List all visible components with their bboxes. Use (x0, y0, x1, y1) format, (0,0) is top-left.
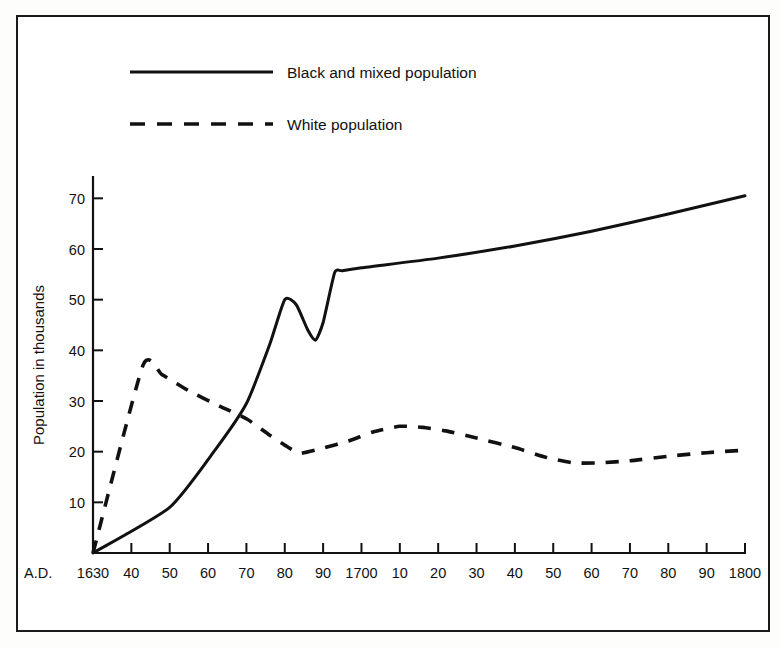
x-tick-label-1630: 1630 (77, 565, 109, 581)
x-axis-prefix: A.D. (24, 565, 52, 581)
x-tick-label-1650: 50 (162, 565, 178, 581)
x-tick-label-1730: 30 (468, 565, 484, 581)
data-series-layer (93, 196, 745, 553)
y-tick-label-60: 60 (69, 242, 85, 258)
x-tick-label-1690: 90 (315, 565, 331, 581)
x-tick-label-1800: 1800 (729, 565, 761, 581)
legend-item-black-and-mixed-population: Black and mixed population (130, 64, 477, 81)
x-tick-label-1750: 50 (545, 565, 561, 581)
legend-item-white-population: White population (130, 116, 402, 133)
x-tick-label-1760: 60 (584, 565, 600, 581)
series-line-black-and-mixed-population (93, 196, 745, 553)
y-tick-label-40: 40 (69, 343, 85, 359)
legend-label-1: White population (287, 116, 402, 133)
y-tick-label-70: 70 (69, 191, 85, 207)
x-axis-ticks: 1630405060708090170010203040506070809018… (77, 543, 761, 581)
x-tick-label-1660: 60 (200, 565, 216, 581)
y-axis-title: Population in thousands (30, 285, 47, 445)
y-tick-label-50: 50 (69, 292, 85, 308)
x-tick-label-1710: 10 (392, 565, 408, 581)
chart-figure: Black and mixed population White populat… (0, 0, 780, 648)
y-tick-label-30: 30 (69, 394, 85, 410)
x-tick-label-1640: 40 (123, 565, 139, 581)
series-line-white-population (93, 360, 745, 553)
x-tick-label-1700: 1700 (345, 565, 377, 581)
y-axis-ticks: 10203040506070 (69, 191, 103, 511)
x-tick-label-1780: 80 (660, 565, 676, 581)
x-tick-label-1670: 70 (238, 565, 254, 581)
axes (93, 176, 746, 553)
x-tick-label-1790: 90 (699, 565, 715, 581)
x-tick-label-1770: 70 (622, 565, 638, 581)
y-tick-label-20: 20 (69, 444, 85, 460)
legend-label-0: Black and mixed population (287, 64, 477, 81)
x-tick-label-1740: 40 (507, 565, 523, 581)
y-tick-label-10: 10 (69, 495, 85, 511)
legend: Black and mixed population White populat… (130, 64, 477, 133)
x-tick-label-1680: 80 (277, 565, 293, 581)
chart-canvas: Black and mixed population White populat… (0, 0, 780, 648)
x-tick-label-1720: 20 (430, 565, 446, 581)
